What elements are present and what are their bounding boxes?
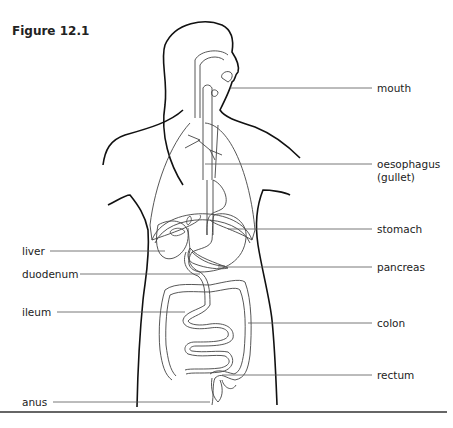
oesophagus-trachea xyxy=(185,51,232,235)
label-pancreas: pancreas xyxy=(377,261,425,273)
digestive-system-diagram xyxy=(0,0,453,428)
label-colon: colon xyxy=(377,317,405,329)
body-outline xyxy=(103,22,300,407)
label-rectum: rectum xyxy=(377,369,414,381)
label-gullet: (gullet) xyxy=(377,171,415,183)
label-duodenum: duodenum xyxy=(22,268,78,280)
ileum xyxy=(183,305,233,374)
bottom-rule xyxy=(0,411,447,413)
label-mouth: mouth xyxy=(377,82,411,94)
label-anus: anus xyxy=(22,396,47,408)
label-stomach: stomach xyxy=(377,223,422,235)
leader-lines xyxy=(50,88,372,402)
label-liver: liver xyxy=(22,245,45,257)
label-ileum: ileum xyxy=(22,306,51,318)
label-oesophagus: oesophagus xyxy=(377,158,440,170)
